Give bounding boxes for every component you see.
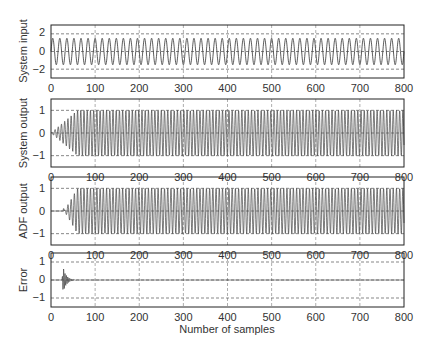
x-ticks: 0100200300400500600700800 — [48, 249, 413, 261]
ytick: −2 — [32, 63, 45, 75]
ytick: 1 — [39, 104, 45, 116]
ytick: −1 — [32, 291, 45, 303]
ytick: −1 — [32, 227, 45, 239]
panel-error: 1 0 −1 Error 0100200300400500600700800 N… — [17, 253, 413, 335]
ytick: 0 — [39, 273, 45, 285]
xtick: 0 — [48, 82, 54, 94]
figure: 2 0 −2 System input 01002003004005006007… — [0, 0, 428, 349]
xtick: 400 — [218, 311, 236, 323]
xtick: 400 — [218, 82, 236, 94]
ytick: 2 — [39, 26, 45, 38]
panel-system-input: 2 0 −2 System input 01002003004005006007… — [17, 19, 413, 94]
xtick: 200 — [130, 82, 148, 94]
xtick: 100 — [86, 82, 104, 94]
x-ticks: 0100200300400500600700800 — [48, 311, 413, 323]
y-axis-label: ADF output — [17, 183, 29, 239]
x-ticks: 0100200300400500600700800 — [48, 82, 413, 94]
y-axis-label: Error — [17, 267, 29, 292]
xtick: 200 — [130, 311, 148, 323]
panel-system-output: 1 0 −1 System output 0100200300400500600… — [17, 98, 413, 183]
xtick: 800 — [395, 311, 413, 323]
ytick: 1 — [39, 182, 45, 194]
ytick: 0 — [39, 45, 45, 57]
ytick: −1 — [32, 149, 45, 161]
xtick: 500 — [262, 82, 280, 94]
ytick: 1 — [39, 255, 45, 267]
xtick: 700 — [351, 311, 369, 323]
xtick: 600 — [307, 311, 325, 323]
x-axis-label: Number of samples — [179, 323, 275, 335]
ytick: 0 — [39, 205, 45, 217]
panel-adf-output: 1 0 −1 ADF output 0100200300400500600700… — [17, 177, 413, 261]
xtick: 800 — [395, 82, 413, 94]
ytick: 0 — [39, 127, 45, 139]
y-axis-label: System input — [17, 19, 29, 83]
xtick: 100 — [86, 311, 104, 323]
xtick: 500 — [262, 311, 280, 323]
xtick: 600 — [307, 82, 325, 94]
y-axis-label: System output — [17, 98, 29, 168]
xtick: 300 — [174, 311, 192, 323]
xtick: 700 — [351, 82, 369, 94]
xtick: 300 — [174, 82, 192, 94]
xtick: 0 — [48, 311, 54, 323]
